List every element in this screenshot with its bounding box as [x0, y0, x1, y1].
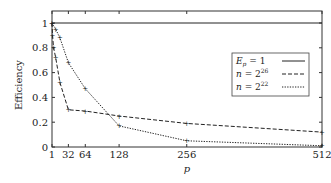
data-point: + [57, 34, 63, 42]
efficiency-chart: 1326412825651200.20.40.60.81 +++++++++++… [0, 0, 331, 183]
data-point: + [82, 108, 88, 116]
data-point: + [51, 44, 57, 52]
y-tick-label: 0.6 [32, 67, 48, 78]
x-tick-label: 512 [312, 149, 331, 160]
x-tick-label: 256 [177, 149, 196, 160]
data-point: + [53, 54, 59, 62]
data-point: + [53, 26, 59, 34]
data-point: + [184, 137, 190, 145]
data-point: + [57, 79, 63, 87]
data-point: + [319, 142, 325, 150]
y-axis-label: Efficiency [13, 60, 24, 110]
x-tick-label: 64 [79, 149, 92, 160]
data-point: + [116, 113, 122, 121]
x-tick-label: 32 [62, 149, 75, 160]
data-point: + [319, 129, 325, 137]
y-tick-label: 0.8 [32, 42, 48, 53]
data-point: + [184, 120, 190, 128]
data-point: + [82, 85, 88, 93]
data-point: + [65, 59, 71, 67]
legend: Ep = 1n = 226n = 222 [232, 53, 309, 96]
y-tick-label: 0.2 [32, 117, 48, 128]
x-tick-label: 128 [110, 149, 129, 160]
y-tick-label: 1 [42, 18, 48, 29]
data-point: + [65, 106, 71, 114]
y-tick-label: 0 [42, 142, 48, 153]
x-tick-label: 1 [49, 149, 55, 160]
x-axis-label: p [184, 163, 191, 174]
y-tick-label: 0.4 [32, 92, 48, 103]
data-point: + [116, 122, 122, 130]
